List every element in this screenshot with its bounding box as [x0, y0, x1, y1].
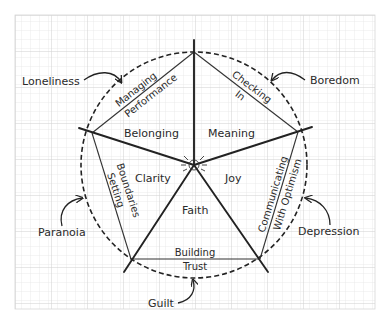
feeling-paranoia: Paranoia — [38, 226, 86, 239]
label-faith: Faith — [182, 204, 208, 217]
edge-label-building: Building — [175, 247, 216, 258]
label-meaning: Meaning — [208, 127, 255, 140]
feeling-guilt: Guilt — [148, 297, 175, 310]
feeling-boredom: Boredom — [310, 74, 360, 87]
label-belonging: Belonging — [124, 127, 179, 140]
label-clarity: Clarity — [135, 172, 171, 185]
pentagon-diagram: Belonging Meaning Clarity Joy Faith Mana… — [0, 0, 390, 332]
feeling-depression: Depression — [298, 225, 360, 238]
feeling-loneliness: Loneliness — [22, 75, 80, 88]
edge-label-trust: Trust — [182, 261, 207, 272]
label-joy: Joy — [224, 172, 242, 185]
